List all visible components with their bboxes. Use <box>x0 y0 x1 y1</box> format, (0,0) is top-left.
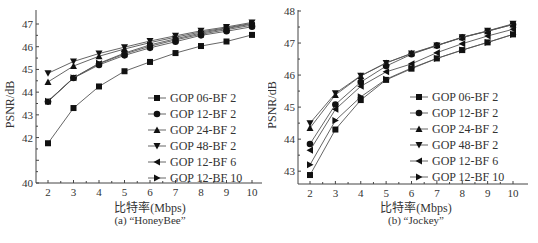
marker-triangle-left-icon <box>383 68 390 75</box>
legend-label: GOP 12-BF 10 <box>432 170 504 184</box>
marker-triangle-down-icon <box>70 58 77 64</box>
x-tick-label: 8 <box>198 186 204 198</box>
marker-square-icon <box>198 43 204 49</box>
legend-item: GOP 06-BF 2 <box>410 90 498 104</box>
marker-square-icon <box>45 140 51 146</box>
legend-item: GOP 12-BF 6 <box>410 154 498 168</box>
marker-triangle-left-icon <box>416 158 423 165</box>
legend-item: GOP 48-BF 2 <box>148 139 236 153</box>
x-tick-label: 6 <box>147 186 153 198</box>
chart-honeybee: 404243444546472345678910PSNR/dBGOP 06-BF… <box>0 0 270 243</box>
marker-triangle-left-icon <box>154 159 161 166</box>
y-tick-label: 45 <box>22 63 34 75</box>
legend-item: GOP 12-BF 2 <box>410 106 498 120</box>
marker-triangle-up-icon <box>45 78 52 85</box>
marker-square-icon <box>96 83 102 89</box>
x-tick-label: 5 <box>122 186 128 198</box>
plot-jockey: 4344454647482345678910PSNR/dBGOP 06-BF 2… <box>268 0 538 200</box>
legend-item: GOP 24-BF 2 <box>410 122 498 136</box>
y-tick-label: 46 <box>284 69 296 81</box>
y-tick-label: 43 <box>284 165 296 177</box>
legend: GOP 06-BF 2GOP 12-BF 2GOP 24-BF 2GOP 48-… <box>410 90 504 184</box>
y-axis-label: PSNR/dB <box>268 81 279 128</box>
marker-triangle-left-icon <box>433 49 440 56</box>
legend-item: GOP 24-BF 2 <box>148 123 236 137</box>
legend-label: GOP 06-BF 2 <box>432 90 498 104</box>
legend-label: GOP 12-BF 10 <box>170 171 242 185</box>
marker-circle-icon <box>154 111 161 118</box>
chart-caption: (a) “HoneyBee” <box>20 214 280 226</box>
marker-triangle-down-icon <box>45 70 52 77</box>
y-tick-label: 46 <box>22 41 34 53</box>
legend-label: GOP 12-BF 6 <box>432 154 498 168</box>
marker-square-icon <box>416 94 422 100</box>
plot-honeybee: 404243444546472345678910PSNR/dBGOP 06-BF… <box>0 0 270 200</box>
x-tick-label: 4 <box>96 186 102 198</box>
y-tick-label: 42 <box>22 132 33 144</box>
marker-triangle-down-icon <box>96 51 103 58</box>
y-tick-label: 43 <box>22 109 34 121</box>
legend-label: GOP 48-BF 2 <box>432 138 498 152</box>
marker-triangle-left-icon <box>459 40 466 47</box>
marker-square-icon <box>154 95 160 101</box>
legend-label: GOP 24-BF 2 <box>170 123 236 137</box>
marker-square-icon <box>307 172 313 178</box>
legend-label: GOP 12-BF 6 <box>170 155 236 169</box>
marker-square-icon <box>249 32 255 38</box>
x-tick-label: 3 <box>71 186 77 198</box>
y-tick-label: 48 <box>284 5 296 17</box>
legend-label: GOP 06-BF 2 <box>170 91 236 105</box>
x-tick-label: 7 <box>173 186 179 198</box>
legend-label: GOP 48-BF 2 <box>170 139 236 153</box>
y-tick-label: 40 <box>22 177 34 189</box>
marker-triangle-left-icon <box>307 147 314 154</box>
legend-item: GOP 48-BF 2 <box>410 138 498 152</box>
x-tick-label: 2 <box>45 186 51 198</box>
y-tick-label: 44 <box>284 133 296 145</box>
marker-square-icon <box>147 59 153 65</box>
y-tick-label: 44 <box>22 86 34 98</box>
legend-label: GOP 24-BF 2 <box>432 122 498 136</box>
marker-square-icon <box>173 50 179 56</box>
chart-jockey: 4344454647482345678910PSNR/dBGOP 06-BF 2… <box>268 0 538 243</box>
legend-item: GOP 12-BF 10 <box>410 170 504 184</box>
marker-triangle-right-icon <box>416 174 423 181</box>
legend-label: GOP 12-BF 2 <box>170 107 236 121</box>
marker-square-icon <box>71 105 77 111</box>
marker-square-icon <box>122 68 128 74</box>
x-tick-label: 9 <box>224 186 230 198</box>
legend: GOP 06-BF 2GOP 12-BF 2GOP 24-BF 2GOP 48-… <box>148 91 242 185</box>
marker-square-icon <box>224 38 230 44</box>
legend-item: GOP 12-BF 6 <box>148 155 236 169</box>
marker-square-icon <box>332 127 338 133</box>
legend-item: GOP 06-BF 2 <box>148 91 236 105</box>
legend-item: GOP 12-BF 2 <box>148 107 236 121</box>
marker-triangle-right-icon <box>154 175 161 182</box>
chart-caption: (b) “Jockey” <box>286 214 538 226</box>
y-tick-label: 47 <box>284 37 296 49</box>
marker-circle-icon <box>416 110 423 117</box>
y-tick-label: 47 <box>22 18 34 30</box>
marker-triangle-down-icon <box>307 120 314 127</box>
y-tick-label: 45 <box>284 101 296 113</box>
legend-label: GOP 12-BF 2 <box>432 106 498 120</box>
y-axis-label: PSNR/dB <box>3 81 17 128</box>
x-tick-label: 10 <box>247 186 259 198</box>
marker-triangle-right-icon <box>307 161 314 168</box>
